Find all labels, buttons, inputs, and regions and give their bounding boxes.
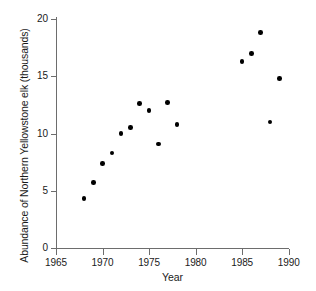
x-tick-label: 1985: [231, 257, 253, 268]
x-tick-mark: [289, 249, 290, 255]
data-point: [91, 180, 96, 185]
data-point: [175, 122, 180, 127]
x-tick-mark: [56, 249, 57, 255]
y-tick-label: 0: [43, 243, 48, 253]
x-tick-label: 1970: [92, 257, 114, 268]
x-tick-mark: [149, 249, 150, 255]
x-tick-mark: [242, 249, 243, 255]
data-point: [156, 142, 161, 147]
x-tick-mark: [103, 249, 104, 255]
plot-area: [56, 19, 289, 248]
x-axis-title: Year: [56, 271, 289, 283]
y-tick-label: 5: [43, 186, 48, 196]
data-point: [128, 125, 133, 130]
elk-abundance-scatter-chart: Abundance of Northern Yellowstone elk (t…: [0, 0, 316, 291]
data-point: [240, 59, 245, 64]
x-tick-label: 1980: [185, 257, 207, 268]
y-tick-label: 20: [37, 14, 48, 24]
y-tick-label: 15: [37, 71, 48, 81]
x-tick-label: 1965: [45, 257, 67, 268]
data-point: [100, 161, 105, 166]
x-tick-mark: [196, 249, 197, 255]
x-tick-label: 1975: [138, 257, 160, 268]
x-axis-line: [56, 248, 289, 249]
data-point: [249, 51, 254, 56]
data-point: [165, 100, 170, 105]
x-tick-label: 1990: [278, 257, 300, 268]
y-tick-label: 10: [37, 129, 48, 139]
data-point: [277, 76, 282, 81]
y-axis-title: Abundance of Northern Yellowstone elk (t…: [16, 0, 32, 291]
